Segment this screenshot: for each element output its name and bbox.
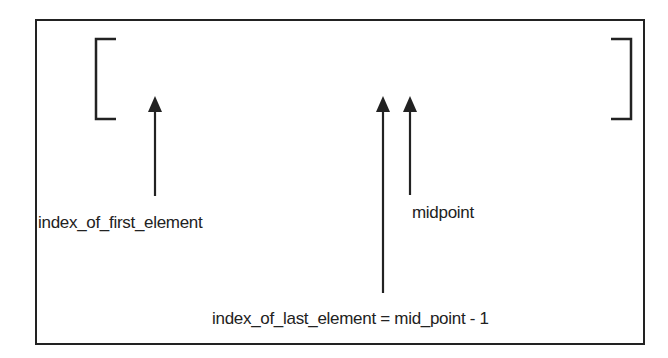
label-index-of-last-element: index_of_last_element = mid_point - 1	[212, 309, 489, 329]
label-midpoint: midpoint	[412, 203, 474, 223]
arrow-first-element-icon	[148, 96, 162, 196]
left-bracket-icon	[96, 39, 116, 119]
arrow-midpoint-icon	[403, 96, 417, 195]
label-index-of-first-element: index_of_first_element	[38, 213, 202, 233]
arrow-last-element-icon	[376, 96, 390, 293]
diagram-graphics	[0, 0, 668, 358]
right-bracket-icon	[611, 39, 631, 119]
